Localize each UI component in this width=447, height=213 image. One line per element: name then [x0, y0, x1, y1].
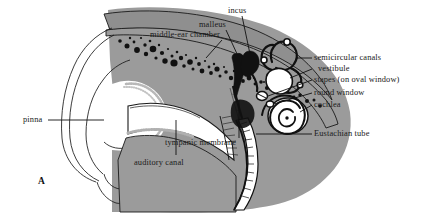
label-eustachian-tube: Eustachian tube — [314, 130, 370, 138]
label-semicircular-canals: semicircular canals — [314, 54, 381, 62]
stapes — [257, 92, 268, 101]
label-vestibule: vestibule — [318, 65, 350, 73]
label-incus: incus — [228, 7, 246, 15]
label-tympanic-membrane: tympanic membrane — [165, 139, 236, 147]
label-pinna: pinna — [23, 116, 42, 124]
label-round-window: round window — [314, 89, 364, 97]
label-stapes: stapes (on oval window) — [314, 76, 400, 84]
label-middle-ear-chamber: middle-ear chamber — [0, 31, 220, 39]
ear-anatomy-figure: middle-ear chamber malleus incus semicir… — [0, 0, 447, 213]
round-window — [266, 101, 273, 107]
label-cochlea: cochlea — [314, 101, 341, 109]
vestibule — [266, 68, 292, 94]
label-malleus: malleus — [0, 21, 226, 29]
label-auditory-canal: auditory canal — [134, 159, 184, 167]
panel-letter: A — [38, 176, 45, 186]
